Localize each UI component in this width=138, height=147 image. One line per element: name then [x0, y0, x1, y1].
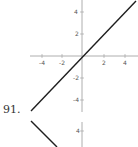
- x-tick-label: 4: [123, 59, 127, 66]
- problem-number: 91.: [3, 103, 21, 116]
- y-tick-label: 4: [76, 127, 80, 134]
- y-tick-label: 4: [74, 8, 78, 15]
- y-tick-label: -2: [73, 74, 79, 81]
- figure-canvas: 4 2 -2 -4 -4 -2 2 4 91. 4: [0, 0, 138, 147]
- top-graph: 4 2 -2 -4 -4 -2 2 4: [30, 0, 138, 112]
- x-tick-label: -2: [59, 59, 65, 66]
- plot-line: [31, 121, 57, 147]
- y-tick-label: 2: [75, 30, 79, 37]
- x-tick-label: 2: [102, 59, 106, 66]
- bottom-graph: 4: [31, 121, 84, 147]
- y-tick-label: -4: [73, 96, 79, 103]
- x-tick-label: -4: [39, 59, 45, 66]
